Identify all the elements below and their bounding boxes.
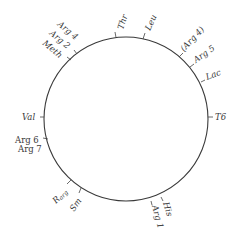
chromosome-circle bbox=[44, 37, 208, 201]
marker-label: Leu bbox=[142, 13, 158, 33]
marker-arg6-arg7: Arg 6 Arg 7 bbox=[14, 135, 48, 154]
marker-label-secondary: Arg 7 bbox=[17, 144, 42, 154]
marker-t6: T6 bbox=[208, 112, 227, 122]
marker-val: Val bbox=[22, 112, 44, 122]
marker-leu: Leu bbox=[142, 13, 158, 39]
marker-label: Arg 5 bbox=[191, 43, 217, 65]
marker-sm: Sm bbox=[67, 188, 83, 213]
marker-thr: Thr bbox=[115, 12, 130, 37]
marker-label: T6 bbox=[215, 112, 227, 122]
marker-lac: Lac bbox=[201, 67, 222, 82]
marker-label: Sm bbox=[67, 196, 83, 213]
marker-label: Val bbox=[22, 112, 35, 122]
marker-label: Thr bbox=[115, 12, 129, 30]
marker-arg5: Arg 5 bbox=[190, 43, 217, 67]
marker-label: Lac bbox=[203, 67, 222, 82]
marker-label: Rarg bbox=[50, 186, 70, 206]
marker-rarg: Rarg bbox=[50, 180, 71, 207]
genetic-map-diagram: Thr Leu (Arg 4) Arg 5 Lac T6 His Arg 1 S… bbox=[0, 0, 242, 244]
